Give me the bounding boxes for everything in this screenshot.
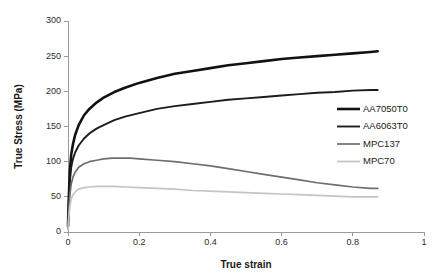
legend-label-mpc137: MPC137: [363, 138, 400, 149]
y-tick-label: 50: [51, 191, 61, 201]
x-tick-label: 0.6: [275, 237, 288, 247]
y-tick-label: 200: [46, 86, 61, 96]
legend-label-aa6063t0: AA6063T0: [363, 120, 408, 131]
y-tick-label: 0: [56, 226, 61, 236]
series-group: [68, 51, 378, 230]
x-ticks: 00.20.40.60.81: [65, 232, 426, 247]
x-tick-label: 1: [421, 237, 426, 247]
x-tick-label: 0: [65, 237, 70, 247]
y-tick-label: 100: [46, 156, 61, 166]
y-tick-label: 250: [46, 51, 61, 61]
series-line-mpc137: [68, 158, 378, 229]
x-tick-label: 0.8: [347, 237, 360, 247]
x-tick-label: 0.2: [133, 237, 146, 247]
chart-legend: AA7050T0AA6063T0MPC137MPC70: [337, 103, 408, 167]
y-ticks: 050100150200250300: [46, 15, 68, 236]
x-tick-label: 0.4: [204, 237, 217, 247]
y-tick-label: 300: [46, 15, 61, 25]
legend-label-aa7050t0: AA7050T0: [363, 103, 408, 114]
stress-strain-chart: 050100150200250300 00.20.40.60.81 AA7050…: [0, 0, 447, 277]
y-axis-title: True Stress (MPa): [13, 84, 24, 168]
chart-canvas: 050100150200250300 00.20.40.60.81 AA7050…: [0, 0, 447, 277]
legend-label-mpc70: MPC70: [363, 155, 395, 166]
series-line-mpc70: [68, 186, 378, 230]
x-axis-title: True strain: [220, 259, 271, 270]
series-line-aa7050t0: [68, 51, 378, 226]
y-tick-label: 150: [46, 121, 61, 131]
